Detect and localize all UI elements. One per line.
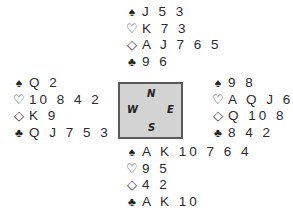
diamond-icon: ◇: [126, 37, 138, 53]
south-clubs: A K 10: [142, 194, 200, 210]
north-clubs: 9 6: [142, 54, 170, 70]
south-diamonds: 4 2: [142, 177, 170, 193]
heart-icon: ♡: [126, 21, 138, 37]
south-spades: A K 10 7 6 4: [142, 144, 252, 160]
spade-icon: ♠: [126, 4, 138, 20]
north-spades: J 5 3: [142, 4, 186, 20]
heart-icon: ♡: [126, 161, 138, 177]
east-spades: 9 8: [228, 75, 256, 91]
compass-north-label: N: [147, 88, 155, 99]
compass-south-label: S: [148, 122, 155, 133]
club-icon: ♣: [13, 125, 25, 141]
club-icon: ♣: [126, 194, 138, 210]
club-icon: ♣: [126, 54, 138, 70]
east-diamonds: Q 10 8 3: [228, 108, 293, 124]
compass-box: N W E S: [118, 82, 183, 139]
compass-west-label: W: [127, 104, 138, 115]
west-hearts: 10 8 4 2: [29, 92, 102, 108]
spade-icon: ♠: [126, 144, 138, 160]
diamond-icon: ◇: [126, 177, 138, 193]
diamond-icon: ◇: [212, 108, 224, 124]
east-clubs: 8 4 2: [228, 125, 273, 141]
heart-icon: ♡: [212, 92, 224, 108]
east-hearts: A Q J 6: [228, 92, 293, 108]
north-diamonds: A J 7 6 5: [142, 37, 222, 53]
diamond-icon: ◇: [13, 108, 25, 124]
spade-icon: ♠: [212, 75, 224, 91]
clipped-header-text: [12, 0, 102, 3]
compass-east-label: E: [167, 104, 174, 115]
west-clubs: Q J 7 5 3: [29, 125, 111, 141]
spade-icon: ♠: [13, 75, 25, 91]
west-diamonds: K 9: [29, 108, 58, 124]
club-icon: ♣: [212, 125, 224, 141]
north-hearts: K 7 3: [142, 21, 189, 37]
west-spades: Q 2: [29, 75, 60, 91]
heart-icon: ♡: [13, 92, 25, 108]
south-hearts: 9 5: [142, 161, 170, 177]
